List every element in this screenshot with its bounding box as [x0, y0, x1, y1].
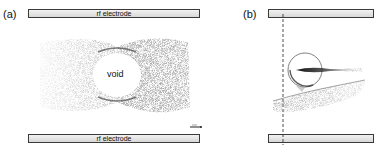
void-label: void: [107, 69, 124, 79]
plasma-dust-diagram: [0, 0, 384, 150]
plasma-sheath: [273, 80, 365, 112]
scale-bar: [190, 125, 202, 128]
